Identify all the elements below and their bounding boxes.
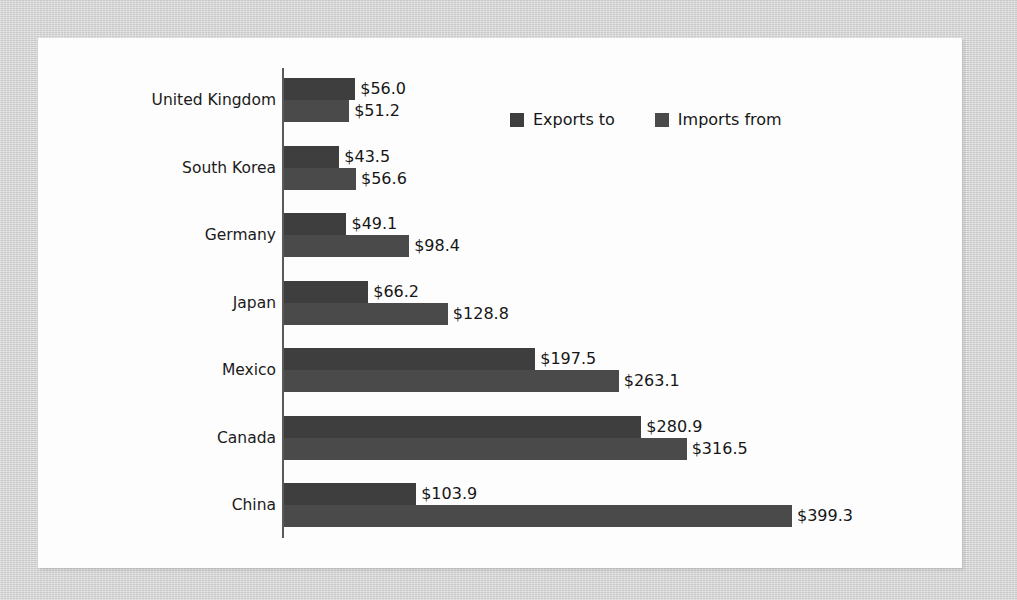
category-label-china: China: [36, 498, 276, 514]
bar-group: Japan$66.2$128.8: [38, 281, 962, 325]
bar-value-label: $51.2: [354, 100, 400, 122]
bar-imports: [284, 505, 792, 527]
bar-value-label: $128.8: [453, 303, 509, 325]
bar-value-label: $103.9: [421, 483, 477, 505]
chart-legend: Exports toImports from: [510, 112, 782, 128]
category-label-germany: Germany: [36, 228, 276, 244]
bar-group: Germany$49.1$98.4: [38, 213, 962, 257]
bar-value-label: $263.1: [624, 370, 680, 392]
plot-area: United Kingdom$56.0$51.2South Korea$43.5…: [38, 38, 962, 568]
bar-imports: [284, 235, 409, 257]
category-label-south-korea: South Korea: [36, 161, 276, 177]
bar-value-label: $399.3: [797, 505, 853, 527]
bar-imports: [284, 438, 687, 460]
bar-exports: [284, 78, 355, 100]
bar-value-label: $56.6: [361, 168, 407, 190]
bar-value-label: $197.5: [540, 348, 596, 370]
bar-group: United Kingdom$56.0$51.2: [38, 78, 962, 122]
bar-value-label: $98.4: [414, 235, 460, 257]
legend-item-exports-to[interactable]: Exports to: [510, 112, 615, 128]
bar-imports: [284, 168, 356, 190]
bar-imports: [284, 370, 619, 392]
bar-exports: [284, 416, 641, 438]
bar-group: Mexico$197.5$263.1: [38, 348, 962, 392]
category-label-japan: Japan: [36, 296, 276, 312]
exports-swatch-icon: [510, 113, 524, 127]
bar-imports: [284, 100, 349, 122]
category-label-mexico: Mexico: [36, 363, 276, 379]
bar-value-label: $280.9: [646, 416, 702, 438]
bar-exports: [284, 213, 346, 235]
legend-item-imports-from[interactable]: Imports from: [655, 112, 782, 128]
imports-swatch-icon: [655, 113, 669, 127]
category-label-united-kingdom: United Kingdom: [36, 93, 276, 109]
chart-panel: United Kingdom$56.0$51.2South Korea$43.5…: [38, 38, 962, 568]
bar-imports: [284, 303, 448, 325]
bar-exports: [284, 348, 535, 370]
bar-group: China$103.9$399.3: [38, 483, 962, 527]
category-label-canada: Canada: [36, 431, 276, 447]
bar-exports: [284, 146, 339, 168]
bar-exports: [284, 281, 368, 303]
legend-label: Imports from: [678, 112, 782, 128]
legend-label: Exports to: [533, 112, 615, 128]
bar-value-label: $43.5: [344, 146, 390, 168]
bar-group: South Korea$43.5$56.6: [38, 146, 962, 190]
bar-exports: [284, 483, 416, 505]
bar-value-label: $49.1: [351, 213, 397, 235]
bar-value-label: $66.2: [373, 281, 419, 303]
bar-group: Canada$280.9$316.5: [38, 416, 962, 460]
bar-value-label: $316.5: [692, 438, 748, 460]
bar-value-label: $56.0: [360, 78, 406, 100]
